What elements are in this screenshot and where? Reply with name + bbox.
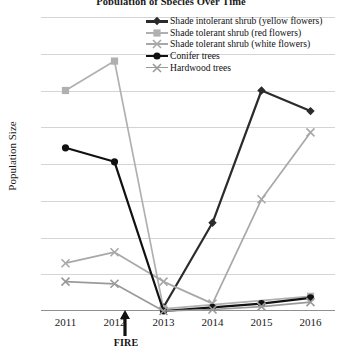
data-point-marker [307,128,315,136]
series-line [66,61,311,309]
legend-item[interactable]: Hardwood trees [146,61,336,73]
x-tick-label: 2015 [239,316,285,328]
legend-swatch-icon [146,38,168,49]
data-point-marker [62,144,69,151]
data-point-marker [153,52,160,59]
data-point-marker [258,195,266,203]
fire-arrow-icon [120,310,130,336]
legend-item[interactable]: Shade tolerant shrub (white flowers) [146,38,336,50]
legend-label: Shade tolerant shrub (red flowers) [170,27,301,38]
data-point-marker [153,17,161,25]
legend-marker-icon [146,62,168,73]
data-point-marker [257,86,265,94]
data-point-marker [306,107,314,115]
legend-swatch-icon [146,62,168,73]
legend-label: Shade intolerant shrub (yellow flowers) [170,15,322,26]
legend-marker-icon [146,27,168,38]
series-3 [62,144,314,314]
chart-legend: Shade intolerant shrub (yellow flowers)S… [146,15,336,73]
data-point-marker [111,158,118,165]
series-line [164,91,311,308]
legend-swatch-icon [146,50,168,61]
legend-swatch-icon [146,27,168,38]
data-point-marker [160,278,168,286]
legend-marker-icon [146,38,168,49]
x-tick-label: 2016 [288,316,334,328]
legend-item[interactable]: Shade intolerant shrub (yellow flowers) [146,15,336,27]
chart-title: Population of Species Over Time [0,0,342,5]
legend-marker-icon [146,15,168,26]
series-line [66,148,311,311]
legend-label: Shade tolerant shrub (white flowers) [170,38,310,49]
data-point-marker [62,87,69,94]
legend-item[interactable]: Shade tolerant shrub (red flowers) [146,27,336,39]
series-2 [62,128,315,307]
x-tick-label: 2014 [190,316,236,328]
series-0 [159,86,314,311]
legend-item[interactable]: Conifer trees [146,50,336,62]
legend-label: Conifer trees [170,50,220,61]
x-tick-label: 2013 [141,316,187,328]
x-tick-label: 2011 [43,316,89,328]
x-tick-label: 2012 [92,316,138,328]
legend-marker-icon [146,50,168,61]
y-axis-title: Population Size [6,96,18,216]
data-point-marker [111,58,118,65]
data-point-marker [153,64,161,72]
legend-swatch-icon [146,15,168,26]
chart-container: Population of Species Over Time Populati… [0,0,342,355]
legend-label: Hardwood trees [170,62,231,73]
data-point-marker [153,40,161,48]
fire-annotation-label: FIRE [103,337,149,348]
data-point-marker [153,29,160,36]
